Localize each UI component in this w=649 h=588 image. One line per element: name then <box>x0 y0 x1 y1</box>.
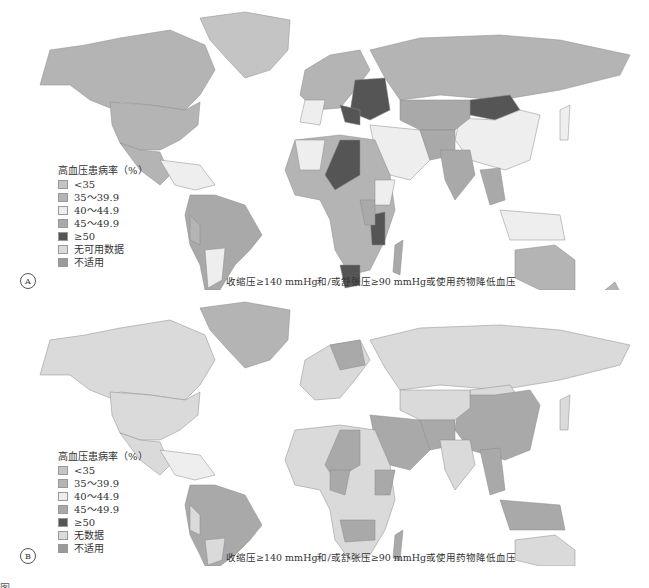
legend-item: 40～44.9 <box>58 204 148 217</box>
legend-b: 高血压患病率（%） <35 35～39.9 40～44.9 45～49.9 ≥5… <box>58 450 148 555</box>
swatch-40-44 <box>58 206 68 215</box>
swatch-na <box>58 544 68 553</box>
region-australia <box>515 245 575 290</box>
swatch-lt35 <box>58 180 68 189</box>
swatch-40-44 <box>58 492 68 501</box>
swatch-nodata <box>58 531 68 540</box>
swatch-45-49 <box>58 505 68 514</box>
region-usa <box>110 102 200 150</box>
legend-item: 不适用 <box>58 256 148 269</box>
footnote-a: 收缩压≥140 mmHg和/或舒张压≥90 mmHg或使用药物降低血压 <box>226 274 516 288</box>
footnote-b: 收缩压≥140 mmHg和/或舒张压≥90 mmHg或使用药物降低血压 <box>226 550 516 564</box>
legend-item: ≥50 <box>58 516 148 529</box>
swatch-35-39 <box>58 193 68 202</box>
legend-item: 45～49.9 <box>58 217 148 230</box>
swatch-35-39 <box>58 479 68 488</box>
legend-title: 高血压患病率（%） <box>58 450 148 463</box>
swatch-ge50 <box>58 518 68 527</box>
legend-item: 35～39.9 <box>58 191 148 204</box>
legend-item: 无可用数据 <box>58 243 148 256</box>
panel-label-a: A <box>20 273 36 289</box>
legend-item: ≥50 <box>58 230 148 243</box>
legend-item: 40～44.9 <box>58 490 148 503</box>
legend-title: 高血压患病率（%） <box>58 164 148 177</box>
legend-item: <35 <box>58 464 148 477</box>
map-panel-b: 高血压患病率（%） <35 35～39.9 40～44.9 45～49.9 ≥5… <box>0 290 649 566</box>
swatch-na <box>58 258 68 267</box>
legend-item: 45～49.9 <box>58 503 148 516</box>
legend-item: 35～39.9 <box>58 477 148 490</box>
legend-item: 不适用 <box>58 542 148 555</box>
legend-item: 无数据 <box>58 529 148 542</box>
panel-label-b: B <box>20 548 36 564</box>
map-panel-a: 高血压患病率（%） <35 35～39.9 40～44.9 45～49.9 ≥5… <box>0 0 649 290</box>
region-canada <box>40 30 215 110</box>
legend-a: 高血压患病率（%） <35 35～39.9 40～44.9 45～49.9 ≥5… <box>58 164 148 269</box>
swatch-nodata <box>58 245 68 254</box>
region-india <box>440 150 475 200</box>
swatch-lt35 <box>58 466 68 475</box>
region-russia <box>370 35 630 100</box>
figure-caption: 图 <box>0 580 10 588</box>
swatch-45-49 <box>58 219 68 228</box>
legend-item: <35 <box>58 178 148 191</box>
swatch-ge50 <box>58 232 68 241</box>
